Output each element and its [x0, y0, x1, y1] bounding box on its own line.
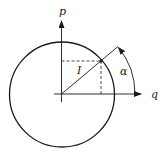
p-axis-label: p [59, 5, 66, 18]
radius-vector [62, 47, 119, 95]
q-axis-label: q [151, 88, 158, 101]
phase-diagram: p q I α [0, 0, 168, 155]
radius-label: I [76, 64, 82, 77]
angle-label: α [120, 65, 128, 78]
circle [10, 42, 115, 147]
